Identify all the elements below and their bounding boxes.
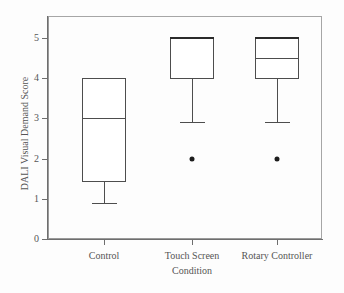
x-tick-label-rotary-controller: Rotary Controller [242,250,313,261]
y-tick-label-5: 5 [19,33,39,43]
median-control [82,118,126,119]
x-tick-touch-screen [192,240,193,245]
whisker-cap-lower-control [92,203,117,204]
outlier-point-rotary-controller [275,157,280,162]
y-axis-line [47,16,48,240]
outlier-point-touch-screen [190,157,195,162]
x-tick-label-control: Control [89,250,120,261]
y-tick-0 [42,239,47,240]
y-tick-4 [42,78,47,79]
whisker-lower-touch-screen [192,78,193,122]
whisker-lower-rotary-controller [277,78,278,122]
y-axis-title: DALI Visual Demand Score [19,44,30,224]
x-axis-title: Condition [172,265,212,276]
median-touch-screen [170,37,214,39]
box-control [82,78,126,182]
x-tick-label-touch-screen: Touch Screen [165,250,220,261]
whisker-cap-lower-touch-screen [180,122,205,123]
y-tick-2 [42,159,47,160]
box-touch-screen [170,38,214,79]
y-tick-3 [42,118,47,119]
box-top-rotary-controller [255,37,299,39]
y-tick-5 [42,38,47,39]
y-tick-1 [42,199,47,200]
whisker-cap-lower-rotary-controller [265,122,290,123]
x-axis-line [47,239,323,240]
box-plot-figure: 5 4 3 2 1 0 DALI Visual Demand Score Con… [0,0,344,293]
median-rotary-controller [255,58,299,59]
whisker-lower-control [104,182,105,203]
x-tick-control [104,240,105,245]
y-tick-label-0: 0 [19,234,39,244]
x-tick-rotary-controller [277,240,278,245]
